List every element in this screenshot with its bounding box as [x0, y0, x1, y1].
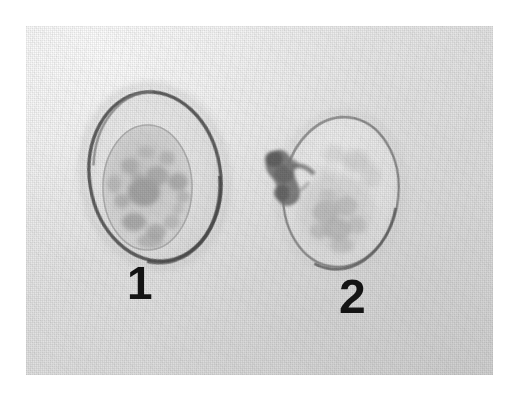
- specimen-label-1: 1: [127, 260, 153, 306]
- specimen-oocyst-1: [70, 75, 241, 277]
- specimen-label-2: 2: [339, 273, 366, 321]
- micrograph-plate: 1 2: [26, 26, 493, 375]
- specimen-oocyst-2: [265, 106, 412, 278]
- specimen-layer: [26, 26, 493, 375]
- figure-root: 1 2: [0, 0, 508, 397]
